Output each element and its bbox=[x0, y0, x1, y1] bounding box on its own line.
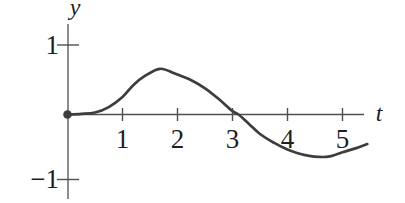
figure-container: y t 1 −1 1 2 3 4 5 bbox=[0, 0, 405, 203]
origin-point-marker bbox=[63, 110, 72, 119]
function-curve bbox=[68, 69, 368, 157]
t-tick-label-3: 3 bbox=[226, 124, 240, 154]
t-axis-label: t bbox=[376, 100, 384, 126]
t-tick-label-1: 1 bbox=[116, 124, 130, 154]
curve-plot: y t 1 −1 1 2 3 4 5 bbox=[0, 0, 405, 203]
y-tick-label-1: 1 bbox=[46, 30, 60, 60]
y-axis-label: y bbox=[68, 0, 81, 20]
t-tick-label-2: 2 bbox=[171, 124, 185, 154]
y-tick-label-minus1: −1 bbox=[30, 164, 59, 194]
